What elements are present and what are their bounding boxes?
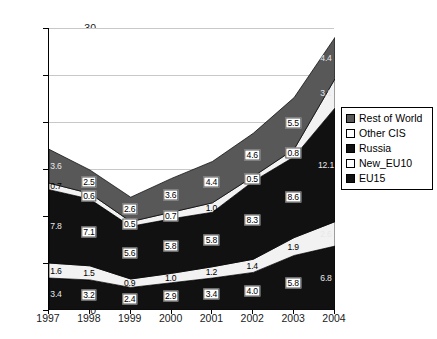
data-label: 0.7: [50, 182, 61, 191]
legend-label: EU15: [359, 173, 385, 184]
legend-swatch: [346, 129, 355, 138]
data-label: 1.2: [206, 268, 217, 277]
legend-label: Russia: [359, 143, 391, 154]
data-label: 1.0: [165, 274, 176, 283]
legend-label: Rest of World: [359, 113, 422, 124]
data-label: 1.6: [50, 266, 61, 275]
data-label: 7.1: [81, 227, 96, 238]
legend-item[interactable]: New_EU10: [346, 156, 429, 171]
data-label: 1.4: [247, 261, 258, 270]
x-axis-tick-label: 2001: [188, 313, 234, 324]
legend-item[interactable]: EU15: [346, 171, 429, 186]
data-label: 1.5: [83, 268, 94, 277]
data-label: 0.8: [285, 148, 300, 159]
data-label: 1.9: [287, 242, 298, 251]
data-label: 8.3: [245, 215, 260, 226]
data-label: 0.7: [163, 210, 178, 221]
data-label: 5.8: [285, 277, 300, 288]
legend-swatch: [346, 144, 355, 153]
x-axis-tick-label: 2003: [270, 313, 316, 324]
x-axis-tick-label: 1999: [107, 313, 153, 324]
data-label: 4.0: [245, 286, 260, 297]
legend-swatch: [346, 159, 355, 168]
data-label: 5.8: [163, 241, 178, 252]
x-axis-tick-mark: [89, 310, 90, 314]
x-axis-tick-mark: [252, 310, 253, 314]
data-label: 7.8: [50, 222, 61, 231]
legend-label: Other CIS: [359, 128, 406, 139]
x-axis-tick-label: 1998: [66, 313, 112, 324]
x-axis-tick-mark: [211, 310, 212, 314]
data-label: 2.4: [122, 293, 137, 304]
x-axis-tick-mark: [171, 310, 172, 314]
data-label: 4.6: [245, 149, 260, 160]
legend-swatch: [346, 174, 355, 183]
data-label: 2.9: [163, 291, 178, 302]
data-label: 3.6: [50, 162, 61, 171]
data-label: 4.4: [204, 177, 219, 188]
data-label: 12.1: [318, 160, 334, 169]
data-label: 8.6: [285, 192, 300, 203]
data-label: 1.0: [206, 203, 217, 212]
x-axis-tick-mark: [293, 310, 294, 314]
x-axis-tick-label: 2004: [311, 313, 357, 324]
legend-label: New_EU10: [359, 158, 412, 169]
legend-swatch: [346, 114, 355, 123]
data-label: 0.5: [122, 218, 137, 229]
data-label: 0.9: [124, 279, 135, 288]
legend-item[interactable]: Russia: [346, 141, 429, 156]
x-axis-tick-mark: [130, 310, 131, 314]
data-label: 3.6: [163, 190, 178, 201]
data-label: 2.6: [122, 204, 137, 215]
x-axis-tick-label: 2000: [148, 313, 194, 324]
legend-item[interactable]: Other CIS: [346, 126, 429, 141]
x-axis-tick-mark: [334, 310, 335, 314]
data-label: 3.4: [204, 289, 219, 300]
data-label: 3.1: [320, 89, 331, 98]
data-label: 5.8: [204, 234, 219, 245]
data-label: 3.4: [50, 290, 61, 299]
legend: Rest of WorldOther CISRussiaNew_EU10EU15: [341, 107, 433, 190]
x-axis-tick-label: 1997: [25, 313, 71, 324]
data-label: 5.5: [285, 118, 300, 129]
data-label: 2.5: [81, 176, 96, 187]
x-axis-tick-label: 2002: [229, 313, 275, 324]
data-label: 5.6: [122, 247, 137, 258]
data-label: 2.6: [320, 229, 331, 238]
data-label: 0.6: [81, 191, 96, 202]
legend-item[interactable]: Rest of World: [346, 111, 429, 126]
data-label: 6.8: [320, 274, 331, 283]
data-label: 4.4: [320, 54, 331, 63]
stacked-area-chart: 051015202530 3.62.52.63.64.44.65.54.40.7…: [0, 0, 437, 339]
data-label: 3.2: [81, 289, 96, 300]
data-label: 0.5: [245, 173, 260, 184]
x-axis-tick-mark: [48, 310, 49, 314]
